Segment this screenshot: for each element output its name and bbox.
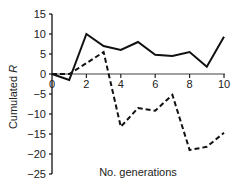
y-tick-label: −10 [27, 108, 46, 120]
y-axis: 151050−5−10−15−20−25 [27, 8, 52, 180]
x-axis-title: No. generations [99, 166, 177, 178]
y-tick-label: 10 [34, 28, 46, 40]
y-tick-label: 0 [40, 68, 46, 80]
y-axis-title: Cumulated R [7, 65, 19, 129]
y-tick-label: −25 [27, 168, 46, 180]
x-axis: 0246810 [49, 74, 230, 90]
y-axis-title-italic: R [7, 65, 19, 73]
x-tick-label: 10 [218, 78, 230, 90]
x-tick-label: 2 [83, 78, 89, 90]
y-tick-label: 5 [40, 48, 46, 60]
series-solid-line [52, 34, 224, 80]
y-axis-title-text: Cumulated [7, 73, 19, 129]
series-group [52, 34, 224, 150]
y-tick-label: −15 [27, 128, 46, 140]
line-chart: 151050−5−10−15−20−25 0246810 No. generat… [0, 0, 241, 190]
y-tick-label: −20 [27, 148, 46, 160]
x-tick-label: 6 [152, 78, 158, 90]
y-tick-label: −5 [33, 88, 46, 100]
x-tick-label: 4 [118, 78, 124, 90]
y-tick-label: 15 [34, 8, 46, 20]
series-dashed-line [52, 52, 224, 150]
x-tick-label: 8 [187, 78, 193, 90]
x-tick-label: 0 [49, 78, 55, 90]
